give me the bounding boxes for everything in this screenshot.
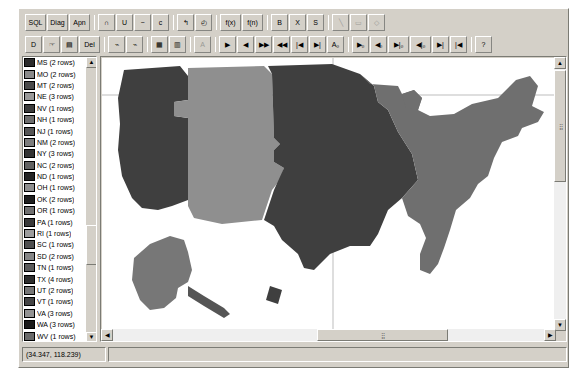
map-scroll-left-icon[interactable]: ◀ xyxy=(101,329,113,341)
toolbar-separator xyxy=(104,37,105,52)
append-button[interactable]: Apn xyxy=(69,14,90,31)
record-end-button[interactable]: ▶| xyxy=(432,36,449,53)
rewind-button[interactable]: ◀◀ xyxy=(273,36,290,53)
select-button[interactable]: S xyxy=(307,14,324,31)
toolbar-separator xyxy=(216,15,217,30)
legend-item[interactable]: MO (2 rows) xyxy=(23,68,85,79)
delete-row-button[interactable]: X xyxy=(289,14,306,31)
legend-item[interactable]: VA (3 rows) xyxy=(23,308,85,319)
legend-item[interactable]: WA (3 rows) xyxy=(23,319,85,330)
label-first-button[interactable]: A₀ xyxy=(327,36,344,53)
legend-item[interactable]: NM (2 rows) xyxy=(23,137,85,148)
legend-item-label: PA (1 rows) xyxy=(37,217,73,228)
record-last-button[interactable]: ▶|₀ xyxy=(388,36,409,53)
legend-item[interactable]: SC (1 rows) xyxy=(23,239,85,250)
clock-icon: ◴ xyxy=(201,15,207,30)
legend-item[interactable]: MS (2 rows) xyxy=(23,57,85,68)
map-graphic[interactable] xyxy=(102,58,554,329)
step-back-button[interactable]: |◀ xyxy=(291,36,308,53)
diagram-button[interactable]: Diag xyxy=(47,14,68,31)
step-forward-button[interactable]: ▶| xyxy=(309,36,326,53)
legend-item[interactable]: NJ (1 rows) xyxy=(23,125,85,136)
toolbar-separator xyxy=(94,15,95,30)
legend-item[interactable]: OK (2 rows) xyxy=(23,194,85,205)
open-button[interactable]: ☞ xyxy=(43,36,60,53)
legend-panel[interactable]: MS (2 rows)MO (2 rows)MT (2 rows)NE (3 r… xyxy=(22,56,97,342)
legend-scroll-thumb[interactable] xyxy=(86,225,97,265)
record-first-button[interactable]: ◀|₀ xyxy=(410,36,431,53)
main-window: SQLDiagApn∩U−c↰◴f(x)f(n)BXS╲▭◇ D☞▤Del⌁⌁▦… xyxy=(18,8,569,368)
legend-item[interactable]: OH (1 rows) xyxy=(23,182,85,193)
record-prev-button[interactable]: ◀₀ xyxy=(370,36,387,53)
map-vscroll-grip-icon: ⣿ xyxy=(559,123,562,130)
map-canvas[interactable] xyxy=(102,58,554,329)
legend-item[interactable]: WV (1 rows) xyxy=(23,330,85,341)
fast-forward-button[interactable]: ▶▶ xyxy=(255,36,272,53)
map-scroll-up-icon[interactable]: ▲ xyxy=(554,57,566,69)
function-button[interactable]: f(x) xyxy=(220,14,241,31)
legend-vertical-scrollbar[interactable]: ▲ ▼ xyxy=(85,57,96,342)
mountain-zone[interactable] xyxy=(174,66,284,224)
legend-list[interactable]: MS (2 rows)MO (2 rows)MT (2 rows)NE (3 r… xyxy=(23,57,85,342)
legend-item[interactable]: RI (1 rows) xyxy=(23,228,85,239)
map-vertical-scrollbar[interactable]: ▲ ⣿ ▼ xyxy=(554,57,566,331)
new-button[interactable]: D xyxy=(25,36,42,53)
map-scroll-right-icon[interactable]: ▶ xyxy=(544,329,556,341)
legend-color-swatch xyxy=(24,149,35,158)
sql-button[interactable]: SQL xyxy=(25,14,46,31)
legend-item[interactable]: MT (2 rows) xyxy=(23,80,85,91)
legend-item[interactable]: NE (3 rows) xyxy=(23,91,85,102)
record-next-button[interactable]: ▶₀ xyxy=(352,36,369,53)
fast-forward-icon: ▶▶ xyxy=(259,37,269,52)
prev-button[interactable]: ◀ xyxy=(237,36,254,53)
function-icon: f(x) xyxy=(225,15,235,30)
legend-item[interactable]: NY (3 rows) xyxy=(23,148,85,159)
map-horizontal-scroll-thumb[interactable]: ⣿ xyxy=(317,329,448,341)
polygon-tool-icon: ◇ xyxy=(374,15,379,30)
bold-button[interactable]: B xyxy=(271,14,288,31)
open-folder-icon: ☞ xyxy=(49,37,55,52)
legend-item[interactable]: PA (1 rows) xyxy=(23,216,85,227)
difference-button[interactable]: − xyxy=(134,14,151,31)
table-view-button[interactable]: ▥ xyxy=(169,36,186,53)
legend-item[interactable]: OR (1 rows) xyxy=(23,205,85,216)
legend-item[interactable]: NV (1 rows) xyxy=(23,103,85,114)
diagram-icon: Diag xyxy=(50,15,64,30)
status-coordinates: (34.347, 118.239) xyxy=(22,347,106,362)
legend-color-swatch xyxy=(24,206,35,215)
grid-view-button[interactable]: ▦ xyxy=(151,36,168,53)
legend-item-label: SD (2 rows) xyxy=(37,251,74,262)
undo-button[interactable]: ↰ xyxy=(177,14,194,31)
clock-button[interactable]: ◴ xyxy=(195,14,212,31)
legend-color-swatch xyxy=(24,309,35,318)
legend-item[interactable]: NH (1 rows) xyxy=(23,114,85,125)
legend-item[interactable]: TX (4 rows) xyxy=(23,273,85,284)
legend-item[interactable]: SD (2 rows) xyxy=(23,251,85,262)
function-alt-button[interactable]: f(n) xyxy=(242,14,263,31)
map-pane: ▲ ⣿ ▼ ◀ ⣿ ▶ xyxy=(100,56,567,342)
intersect-button[interactable]: ∩ xyxy=(98,14,115,31)
play-button[interactable]: ▶ xyxy=(219,36,236,53)
pacific-zone[interactable] xyxy=(118,66,188,210)
zoom-out-button[interactable]: ⌁ xyxy=(126,36,143,53)
legend-item[interactable]: NC (2 rows) xyxy=(23,160,85,171)
union-button[interactable]: U xyxy=(116,14,133,31)
legend-item[interactable]: TN (1 rows) xyxy=(23,262,85,273)
save-button[interactable]: ▤ xyxy=(61,36,78,53)
legend-item[interactable]: VT (1 rows) xyxy=(23,296,85,307)
legend-item[interactable]: ND (1 rows) xyxy=(23,171,85,182)
map-vertical-scroll-thumb[interactable]: ⣿ xyxy=(554,70,566,182)
delete-button[interactable]: Del xyxy=(79,36,100,53)
legend-item[interactable]: UT (2 rows) xyxy=(23,285,85,296)
map-hscroll-grip-icon: ⣿ xyxy=(381,332,384,339)
legend-scroll-down-icon[interactable]: ▼ xyxy=(86,332,97,342)
legend-scroll-up-icon[interactable]: ▲ xyxy=(86,57,97,68)
record-begin-button[interactable]: |◀ xyxy=(450,36,467,53)
map-horizontal-scrollbar[interactable]: ◀ ⣿ ▶ xyxy=(101,329,556,341)
complement-button[interactable]: c xyxy=(152,14,169,31)
toolbar-primary: SQLDiagApn∩U−c↰◴f(x)f(n)BXS╲▭◇ xyxy=(19,12,568,33)
bold-icon: B xyxy=(277,15,282,30)
play-icon: ▶ xyxy=(225,37,230,52)
zoom-in-button[interactable]: ⌁ xyxy=(108,36,125,53)
help-button[interactable]: ? xyxy=(475,36,492,53)
